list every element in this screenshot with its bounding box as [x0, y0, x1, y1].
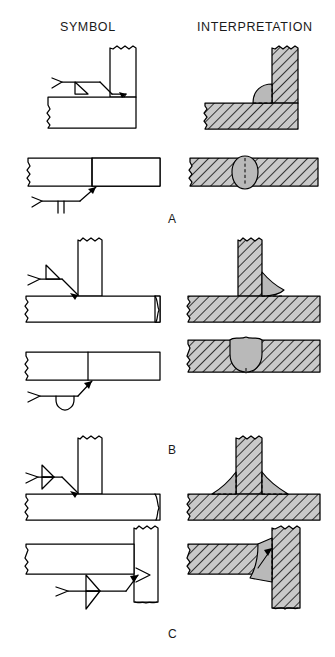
section-a-row-1-interpretation	[204, 46, 298, 129]
interp-vertical-plate	[238, 238, 262, 296]
interp-vertical-plate	[272, 46, 298, 103]
square-groove-weld-symbol	[32, 187, 96, 213]
symbol-vertical-plate	[78, 238, 102, 296]
section-b-row-1-symbol	[25, 238, 160, 322]
symbol-horizontal-plate	[25, 296, 160, 322]
interp-vertical-plate	[272, 526, 300, 608]
tail-flag	[32, 197, 42, 207]
fillet-triangle-below	[42, 477, 54, 489]
tail-flag	[28, 392, 40, 402]
section-a-row-1-symbol	[47, 46, 136, 128]
u-groove-weld-symbol	[28, 381, 92, 410]
symbol-vertical-plate	[78, 436, 102, 494]
interp-horizontal-plate	[187, 296, 320, 322]
welding-symbol-chart: SYMBOL INTERPRETATION A B C	[0, 0, 335, 657]
section-c-row-1-symbol	[25, 436, 160, 520]
weld-bead	[262, 272, 284, 296]
interp-horizontal-plate	[204, 103, 298, 129]
fillet-triangle-above	[86, 575, 100, 591]
weld-bead-left	[212, 472, 236, 494]
symbol-plate-right	[92, 158, 160, 186]
section-a-row-2-interpretation	[189, 156, 318, 189]
tail-flag	[26, 473, 38, 483]
weld-bead-right	[262, 472, 288, 494]
symbol-horizontal-plate	[25, 494, 160, 520]
weld-bead	[230, 337, 262, 372]
interp-horizontal-plate	[187, 494, 320, 520]
weld-bead	[253, 84, 272, 103]
symbol-vertical-plate	[134, 526, 158, 602]
interp-vplate-break-bottom	[273, 608, 298, 609]
section-c-row-2-symbol	[25, 526, 158, 609]
fillet-triangle-below	[86, 591, 100, 609]
section-a-row-2-symbol	[27, 158, 160, 213]
section-c-row-2-interpretation	[187, 526, 300, 609]
tail-flag	[52, 78, 62, 88]
square-groove-bars	[58, 201, 64, 213]
section-b-row-2-interpretation	[187, 337, 320, 374]
fillet-weld-symbol	[28, 265, 78, 300]
tail-flag	[28, 275, 40, 285]
welding-diagram-canvas	[0, 0, 335, 657]
fillet-triangle	[46, 265, 60, 279]
tail-flag	[56, 587, 68, 596]
section-b-row-1-interpretation	[187, 238, 320, 322]
symbol-horizontal-plate	[25, 544, 134, 574]
fillet-triangle-above	[42, 465, 54, 477]
symbol-horizontal-plate	[47, 97, 136, 128]
double-fillet-weld-symbol	[26, 465, 78, 498]
symbol-vertical-plate	[110, 46, 136, 97]
section-b-row-2-symbol	[25, 352, 160, 410]
symbol-plate-left	[25, 352, 160, 380]
interp-vertical-plate	[236, 436, 262, 494]
section-c-row-1-interpretation	[187, 436, 320, 520]
u-groove-glyph	[56, 396, 74, 410]
